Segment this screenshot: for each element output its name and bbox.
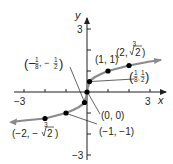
point-label-neg2-neg-cbrt2: (−2, − 3 2 ) — [12, 121, 58, 139]
svg-text:, −: , − — [39, 58, 49, 68]
y-max-label: 3 — [77, 24, 83, 35]
svg-text:2: 2 — [135, 47, 141, 58]
cube-root-graph: −3 3 x y 3 −3 — [0, 0, 173, 164]
svg-text:,: , — [138, 74, 140, 81]
svg-text:): ) — [145, 69, 149, 84]
point-label-1-1: (1, 1) — [95, 54, 118, 65]
point-origin — [84, 89, 89, 94]
svg-text:2: 2 — [54, 63, 58, 70]
point-label-neg-eighth-neg-half: (− 1 8 , − 1 2 ) — [24, 56, 63, 71]
svg-text:): ) — [142, 47, 145, 58]
point-1-1 — [105, 68, 110, 73]
svg-text:): ) — [55, 128, 58, 139]
x-min-label: −3 — [14, 96, 26, 107]
x-max-label: 3 — [145, 96, 151, 107]
point-label-pos-eighth-half: ( 1 8 , 1 2 ) — [129, 69, 149, 84]
svg-text:(−2, −: (−2, − — [12, 128, 38, 139]
svg-text:2: 2 — [47, 128, 53, 139]
point-label-neg1-neg1: (−1, −1) — [99, 126, 134, 137]
point-neg-eighth — [82, 100, 87, 105]
svg-text:1: 1 — [54, 56, 58, 63]
point-label-origin: (0, 0) — [101, 110, 124, 121]
y-min-label: −3 — [72, 150, 84, 161]
curve-left-arrow — [9, 119, 17, 126]
y-axis-label: y — [74, 9, 82, 21]
point-label-2-cbrt2: (2, 3 2 ) — [116, 40, 145, 58]
svg-text:): ) — [59, 56, 63, 71]
x-axis-label: x — [157, 94, 164, 106]
x-axis: −3 3 x — [14, 89, 166, 107]
point-neg1 — [63, 110, 68, 115]
point-2 — [126, 63, 131, 68]
